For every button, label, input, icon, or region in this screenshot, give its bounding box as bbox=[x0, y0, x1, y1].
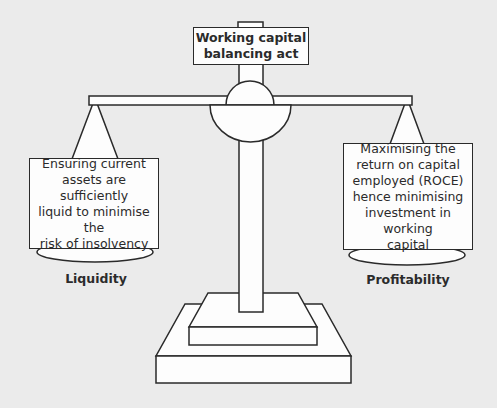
profitability-text-line: return on capital bbox=[356, 157, 460, 173]
profitability-text-line: Maximising the bbox=[360, 141, 455, 157]
base-upper-front bbox=[189, 327, 317, 345]
pivot-dome bbox=[226, 81, 274, 105]
liquidity-text-line: assets are sufficiently bbox=[30, 172, 158, 204]
liquidity-label: Liquidity bbox=[26, 271, 166, 286]
base-lower-front bbox=[156, 356, 351, 383]
title-line-2: balancing act bbox=[204, 46, 299, 62]
profitability-text-line: capital bbox=[387, 237, 429, 253]
profitability-text-line: investment in working bbox=[344, 205, 472, 237]
title-line-1: Working capital bbox=[196, 30, 307, 46]
profitability-label: Profitability bbox=[338, 272, 478, 287]
profitability-box: Maximising the return on capital employe… bbox=[343, 143, 473, 250]
title-box: Working capital balancing act bbox=[193, 27, 309, 65]
profitability-text-line: hence minimising bbox=[353, 189, 464, 205]
profitability-text-line: employed (ROCE) bbox=[353, 173, 464, 189]
left-hanger bbox=[72, 98, 118, 159]
liquidity-text-line: Ensuring current bbox=[42, 156, 146, 172]
liquidity-text-line: risk of insolvency bbox=[40, 236, 149, 252]
liquidity-text-line: liquid to minimise the bbox=[30, 204, 158, 236]
liquidity-box: Ensuring current assets are sufficiently… bbox=[29, 158, 159, 249]
pivot-bowl bbox=[210, 105, 291, 142]
